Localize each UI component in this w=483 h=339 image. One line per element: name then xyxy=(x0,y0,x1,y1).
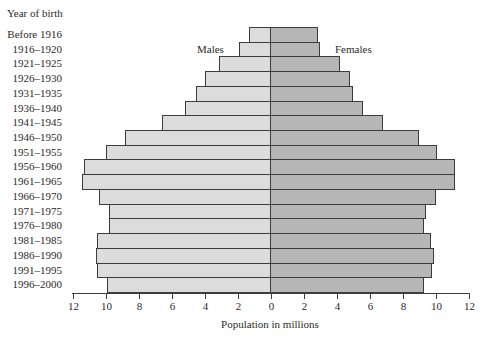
bar-male xyxy=(125,130,270,146)
x-tick-label: 10 xyxy=(431,300,442,312)
bar-female xyxy=(271,42,321,58)
bar-female xyxy=(271,86,354,102)
y-category-label: 1956–1960 xyxy=(13,160,63,172)
y-category-label: 1981–1985 xyxy=(13,234,63,246)
bar-male xyxy=(97,263,270,279)
bar-male xyxy=(96,248,271,264)
bar-female xyxy=(271,27,319,43)
x-tick-label: 0 xyxy=(269,300,275,312)
x-tick-label: 8 xyxy=(401,300,407,312)
bar-male xyxy=(239,42,270,58)
bar-male xyxy=(185,101,271,117)
y-category-label: 1926–1930 xyxy=(13,72,63,84)
bar-male xyxy=(196,86,270,102)
y-category-label: 1941–1945 xyxy=(13,116,63,128)
bar-female xyxy=(271,248,434,264)
y-category-label: Before 1916 xyxy=(7,28,62,40)
bar-male xyxy=(97,233,270,249)
y-category-label: 1931–1935 xyxy=(13,87,63,99)
x-tick-label: 8 xyxy=(137,300,143,312)
bar-male xyxy=(107,277,270,293)
bar-female xyxy=(271,56,340,72)
x-tick xyxy=(304,293,305,299)
y-axis-labels: Before 19161916–19201921–19251926–193019… xyxy=(0,0,62,300)
x-tick-label: 2 xyxy=(302,300,308,312)
x-tick-label: 2 xyxy=(236,300,242,312)
bar-male xyxy=(82,174,270,190)
y-category-label: 1971–1975 xyxy=(13,205,63,217)
bar-male xyxy=(109,218,271,234)
females-label: Females xyxy=(335,43,372,55)
bar-female xyxy=(271,263,433,279)
bar-male xyxy=(84,159,270,175)
x-axis-title: Population in millions xyxy=(221,318,319,330)
y-category-label: 1921–1925 xyxy=(13,57,63,69)
y-category-label: 1991–1995 xyxy=(13,264,63,276)
bar-female xyxy=(271,101,363,117)
x-tick-label: 12 xyxy=(68,300,79,312)
bar-male xyxy=(99,189,271,205)
x-tick xyxy=(73,293,74,299)
y-category-label: 1986–1990 xyxy=(13,249,63,261)
bar-male xyxy=(205,71,271,87)
x-tick xyxy=(238,293,239,299)
y-category-label: 1961–1965 xyxy=(13,175,63,187)
bar-male xyxy=(106,145,271,161)
x-tick xyxy=(403,293,404,299)
x-tick-label: 6 xyxy=(170,300,176,312)
x-tick xyxy=(337,293,338,299)
bar-female xyxy=(271,115,383,131)
y-category-label: 1976–1980 xyxy=(13,219,63,231)
x-tick xyxy=(271,293,272,299)
center-axis-line xyxy=(270,27,271,293)
bar-female xyxy=(271,174,456,190)
males-label: Males xyxy=(197,43,224,55)
x-tick-label: 12 xyxy=(464,300,475,312)
x-tick xyxy=(106,293,107,299)
bar-female xyxy=(271,159,456,175)
x-tick xyxy=(469,293,470,299)
bar-female xyxy=(271,189,436,205)
bar-male xyxy=(162,115,271,131)
y-category-label: 1996–2000 xyxy=(13,278,63,290)
y-category-label: 1951–1955 xyxy=(13,146,63,158)
x-tick xyxy=(172,293,173,299)
bar-male xyxy=(109,204,271,220)
x-tick xyxy=(139,293,140,299)
bar-female xyxy=(271,218,424,234)
y-category-label: 1936–1940 xyxy=(13,102,63,114)
y-category-label: 1946–1950 xyxy=(13,131,63,143)
x-tick xyxy=(436,293,437,299)
bar-female xyxy=(271,277,424,293)
x-tick-label: 4 xyxy=(335,300,341,312)
y-category-label: 1966–1970 xyxy=(13,190,63,202)
y-category-label: 1916–1920 xyxy=(13,43,63,55)
bar-male xyxy=(219,56,270,72)
population-pyramid-chart: Year of birth Before 19161916–19201921–1… xyxy=(0,0,483,339)
bar-male xyxy=(249,27,270,43)
x-tick xyxy=(205,293,206,299)
bar-female xyxy=(271,145,438,161)
bar-female xyxy=(271,204,426,220)
x-tick-label: 6 xyxy=(368,300,374,312)
x-tick xyxy=(370,293,371,299)
bar-female xyxy=(271,130,420,146)
x-tick-label: 4 xyxy=(203,300,209,312)
x-tick-label: 10 xyxy=(101,300,112,312)
bar-female xyxy=(271,71,350,87)
bar-female xyxy=(271,233,431,249)
